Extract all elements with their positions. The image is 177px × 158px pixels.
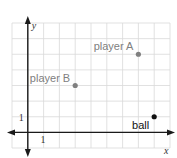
y-axis-label: y — [31, 20, 37, 31]
x-axis-arrow-right-icon — [167, 129, 175, 135]
x-axis-label: x — [163, 145, 169, 156]
coordinate-plane: y x 1 1 player Aplayer Bball — [0, 0, 177, 158]
y-axis-arrow-up-icon — [25, 16, 31, 24]
point-label-player-a: player A — [94, 40, 134, 52]
point-player-a — [136, 52, 141, 57]
point-label-ball: ball — [132, 119, 149, 131]
y-tick-label: 1 — [19, 112, 24, 123]
y-axis-arrow-down-icon — [25, 149, 31, 157]
point-ball — [152, 114, 157, 119]
x-tick-label: 1 — [41, 134, 46, 145]
x-axis-arrow-left-icon — [7, 129, 15, 135]
point-player-b — [73, 83, 78, 88]
point-label-player-b: player B — [30, 72, 70, 84]
